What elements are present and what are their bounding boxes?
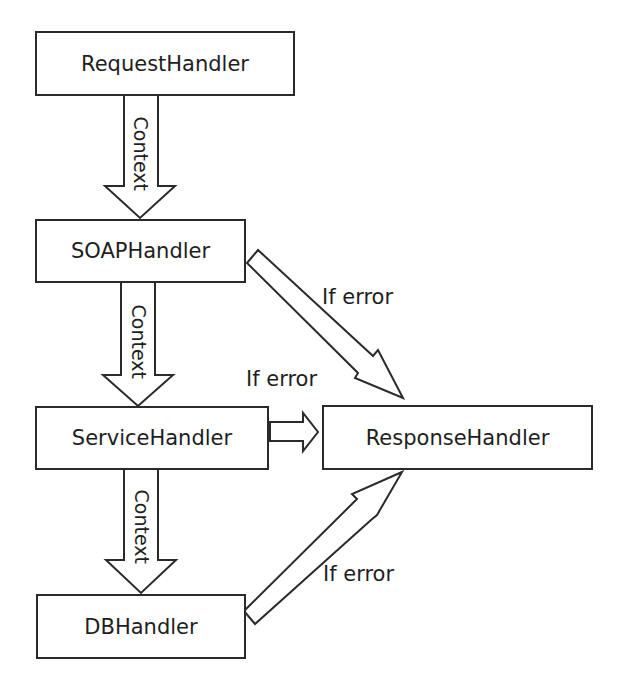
context-label-3: Context (132, 490, 151, 562)
db-handler-node: DBHandler (36, 594, 246, 659)
service-handler-label: ServiceHandler (72, 426, 232, 450)
context-label-2: Context (129, 305, 148, 377)
error-arrow-db-response (244, 472, 402, 624)
request-handler-label: RequestHandler (81, 52, 249, 76)
error-arrow-service-response (270, 413, 318, 451)
soap-handler-label: SOAPHandler (71, 239, 210, 263)
response-handler-node: ResponseHandler (322, 405, 593, 470)
if-error-label-soap: If error (322, 287, 393, 308)
db-handler-label: DBHandler (84, 615, 197, 639)
soap-handler-node: SOAPHandler (35, 219, 246, 283)
request-handler-node: RequestHandler (35, 31, 295, 96)
response-handler-label: ResponseHandler (366, 426, 550, 450)
arrows-layer (0, 0, 622, 688)
context-label-1: Context (131, 117, 150, 189)
if-error-label-db: If error (323, 564, 394, 585)
service-handler-node: ServiceHandler (35, 406, 269, 470)
if-error-label-service: If error (246, 369, 317, 390)
